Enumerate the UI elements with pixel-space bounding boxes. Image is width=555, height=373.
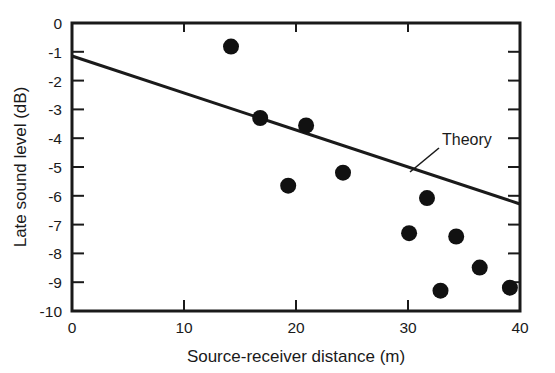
y-axis-ticks	[72, 23, 84, 311]
x-tick-label-20: 20	[287, 319, 305, 336]
y-tick-label-3: -3	[48, 101, 62, 118]
x-tick-label-10: 10	[175, 319, 193, 336]
data-point	[448, 229, 464, 245]
plot-frame	[72, 23, 520, 311]
data-point	[401, 225, 417, 241]
x-tick-label-40: 40	[511, 319, 529, 336]
scatter-plot: 0 -1 -2 -3 -4 -5 -6 -7 -8 -9 -10 0 10 20…	[0, 0, 555, 373]
y-tick-label-4: -4	[48, 130, 62, 147]
data-point	[472, 260, 488, 276]
y-tick-labels: 0 -1 -2 -3 -4 -5 -6 -7 -8 -9 -10	[40, 15, 63, 320]
y-tick-label-6: -6	[48, 188, 62, 205]
axes-frame	[72, 23, 520, 311]
y-tick-label-5: -5	[48, 159, 62, 176]
x-tick-labels: 0 10 20 30 40	[68, 319, 529, 336]
theory-trend-line	[72, 56, 520, 204]
theory-annotation-label: Theory	[442, 131, 492, 148]
y-tick-label-1: -1	[48, 44, 62, 61]
x-axis-ticks	[72, 300, 520, 311]
figure-container: 0 -1 -2 -3 -4 -5 -6 -7 -8 -9 -10 0 10 20…	[0, 0, 555, 373]
data-point	[280, 178, 296, 194]
data-point	[298, 118, 314, 134]
y-tick-label-2: -2	[48, 73, 62, 90]
data-point	[502, 280, 518, 296]
x-tick-label-0: 0	[68, 319, 77, 336]
y-axis-title: Late sound level (dB)	[11, 87, 30, 248]
y-tick-label-0: 0	[53, 15, 62, 32]
data-point	[252, 110, 268, 126]
data-point-group	[223, 39, 518, 299]
y-tick-label-8: -8	[48, 245, 62, 262]
x-tick-label-30: 30	[399, 319, 417, 336]
data-point	[419, 190, 435, 206]
y-tick-label-9: -9	[48, 274, 62, 291]
data-point	[433, 283, 449, 299]
x-axis-title: Source-receiver distance (m)	[187, 347, 405, 366]
data-point	[335, 165, 351, 181]
data-point	[223, 39, 239, 55]
y-tick-label-7: -7	[48, 217, 62, 234]
y-tick-label-10: -10	[40, 303, 63, 320]
theory-leader-line	[410, 148, 439, 172]
right-axis-ticks	[508, 52, 520, 282]
